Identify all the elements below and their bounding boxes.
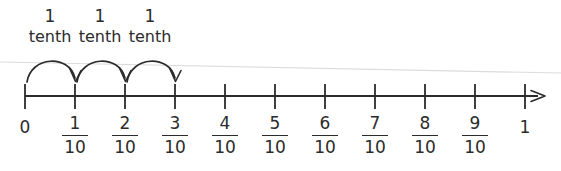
tick-label-10: 1 — [501, 118, 549, 137]
hop-label-3: 1 tenth — [114, 8, 186, 45]
fraction-denominator-3: 10 — [162, 138, 188, 157]
fraction-numerator-1: 1 — [62, 115, 88, 134]
fraction-denominator-7: 10 — [362, 138, 388, 157]
fraction-denominator-2: 10 — [112, 138, 138, 157]
tick-label-whole-0: 0 — [20, 117, 31, 137]
fraction-numerator-8: 8 — [412, 115, 438, 134]
fraction-bar-1 — [62, 135, 88, 137]
number-line-diagram: 1 tenth 1 tenth 1 tenth 0 1 10 2 10 3 10 — [0, 0, 561, 171]
tick-label-8: 8 10 — [401, 115, 449, 157]
fraction-bar-6 — [312, 135, 338, 137]
hop-arrowhead-icon-3 — [170, 68, 182, 82]
fraction-9-10: 9 10 — [462, 115, 488, 157]
fraction-numerator-9: 9 — [462, 115, 488, 134]
fraction-3-10: 3 10 — [162, 115, 188, 157]
tick-label-0: 0 — [1, 118, 49, 137]
tick-label-5: 5 10 — [251, 115, 299, 157]
fraction-numerator-2: 2 — [112, 115, 138, 134]
tick-label-2: 2 10 — [101, 115, 149, 157]
fraction-8-10: 8 10 — [412, 115, 438, 157]
hop-arrowhead-icon-1 — [70, 68, 82, 82]
fraction-5-10: 5 10 — [262, 115, 288, 157]
fraction-bar-5 — [262, 135, 288, 137]
tick-label-1: 1 10 — [51, 115, 99, 157]
fraction-numerator-3: 3 — [162, 115, 188, 134]
fraction-denominator-4: 10 — [212, 138, 238, 157]
hop-arrowheads — [70, 68, 182, 82]
fraction-bar-7 — [362, 135, 388, 137]
fraction-1-10: 1 10 — [62, 115, 88, 157]
tick-label-4: 4 10 — [201, 115, 249, 157]
fraction-denominator-9: 10 — [462, 138, 488, 157]
fraction-bar-2 — [112, 135, 138, 137]
fraction-7-10: 7 10 — [362, 115, 388, 157]
fraction-numerator-7: 7 — [362, 115, 388, 134]
fraction-denominator-5: 10 — [262, 138, 288, 157]
fraction-denominator-8: 10 — [412, 138, 438, 157]
fraction-denominator-1: 10 — [62, 138, 88, 157]
fraction-numerator-5: 5 — [262, 115, 288, 134]
tick-label-9: 9 10 — [451, 115, 499, 157]
fraction-numerator-4: 4 — [212, 115, 238, 134]
tick-label-3: 3 10 — [151, 115, 199, 157]
hop-label-unit-3: tenth — [114, 29, 186, 45]
hop-label-numerator-3: 1 — [114, 8, 186, 25]
fraction-bar-8 — [412, 135, 438, 137]
tick-label-whole-10: 1 — [520, 117, 531, 137]
fraction-6-10: 6 10 — [312, 115, 338, 157]
fraction-bar-3 — [162, 135, 188, 137]
fraction-4-10: 4 10 — [212, 115, 238, 157]
hop-arc-1 — [27, 61, 75, 82]
fraction-2-10: 2 10 — [112, 115, 138, 157]
hop-arrowhead-icon-2 — [120, 68, 132, 82]
fraction-denominator-6: 10 — [312, 138, 338, 157]
fraction-bar-9 — [462, 135, 488, 137]
fraction-numerator-6: 6 — [312, 115, 338, 134]
fraction-bar-4 — [212, 135, 238, 137]
tick-label-6: 6 10 — [301, 115, 349, 157]
tick-label-7: 7 10 — [351, 115, 399, 157]
